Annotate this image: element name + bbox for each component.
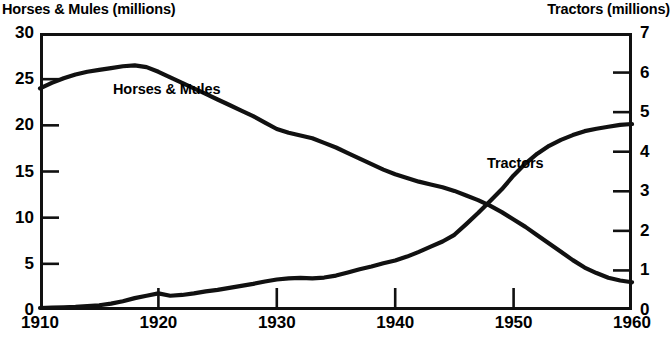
right-tick-label-1: 1 bbox=[640, 261, 649, 278]
x-tick-label-1910: 1910 bbox=[0, 314, 80, 331]
series-line-horses-and-mules bbox=[40, 65, 632, 282]
chart-container: Horses & Mules (millions) Tractors (mill… bbox=[0, 0, 672, 342]
series-line-tractors bbox=[40, 124, 632, 308]
right-tick-label-6: 6 bbox=[640, 64, 649, 81]
left-tick-label-30: 30 bbox=[15, 24, 34, 41]
x-tick-label-1950: 1950 bbox=[474, 314, 554, 331]
plot-area bbox=[40, 33, 632, 310]
right-tick-label-5: 5 bbox=[640, 103, 649, 120]
x-tick-label-1960: 1960 bbox=[592, 314, 672, 331]
right-tick-label-4: 4 bbox=[640, 143, 649, 160]
series-label-horses-and-mules: Horses & Mules bbox=[113, 82, 220, 97]
right-tick-label-2: 2 bbox=[640, 222, 649, 239]
x-tick-label-1930: 1930 bbox=[237, 314, 317, 331]
left-tick-label-20: 20 bbox=[15, 116, 34, 133]
x-tick-label-1940: 1940 bbox=[355, 314, 435, 331]
left-tick-label-25: 25 bbox=[15, 70, 34, 87]
left-tick-label-15: 15 bbox=[15, 163, 34, 180]
right-tick-label-7: 7 bbox=[640, 24, 649, 41]
x-tick-label-1920: 1920 bbox=[118, 314, 198, 331]
right-tick-label-3: 3 bbox=[640, 182, 649, 199]
left-tick-label-5: 5 bbox=[25, 255, 34, 272]
right-axis-ticks bbox=[613, 73, 632, 271]
left-axis-title: Horses & Mules (millions) bbox=[2, 1, 176, 17]
left-tick-label-10: 10 bbox=[15, 209, 34, 226]
left-axis-ticks bbox=[40, 79, 59, 264]
series-label-tractors: Tractors bbox=[487, 156, 543, 171]
right-axis-title: Tractors (millions) bbox=[547, 1, 670, 17]
